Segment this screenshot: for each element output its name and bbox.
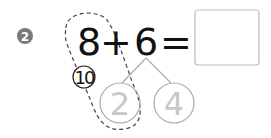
problem-number-badge: 2 (17, 28, 33, 44)
left-operand: 8 (77, 20, 101, 64)
math-problem-canvas: 2 8 + 6 = 10 2 4 (0, 0, 271, 138)
equals-sign: = (160, 20, 192, 64)
plus-operator: + (100, 20, 132, 64)
make-ten-hint: 10 (73, 66, 95, 88)
left-part-value: 2 (110, 85, 130, 123)
badge-number: 2 (21, 30, 29, 44)
right-part-value: 4 (164, 85, 184, 123)
decomposition-left: 2 (100, 83, 140, 123)
right-operand: 6 (134, 20, 158, 64)
ten-hint-text: 10 (75, 67, 95, 88)
answer-box[interactable] (195, 10, 259, 65)
decomposition-right: 4 (154, 83, 194, 123)
